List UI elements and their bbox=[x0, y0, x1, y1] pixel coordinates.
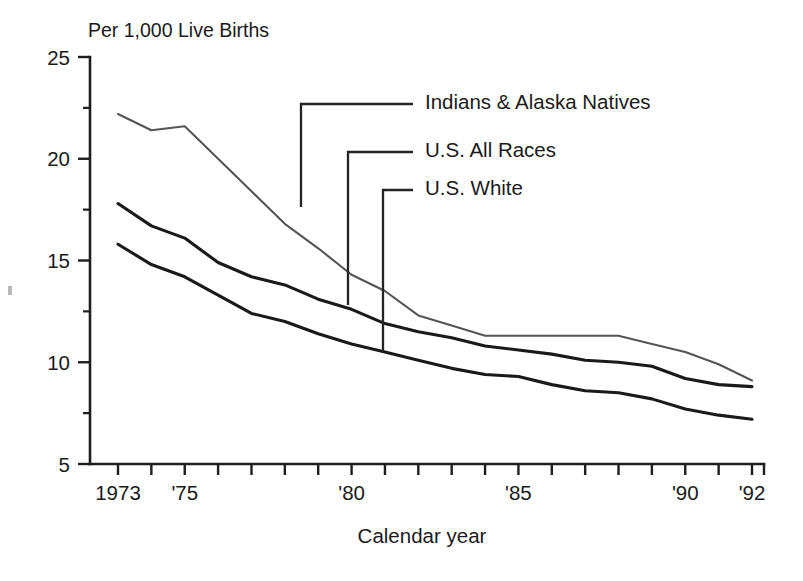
x-tick-label: '80 bbox=[338, 481, 365, 504]
scan-artifact bbox=[8, 286, 12, 295]
y-tick-label: 20 bbox=[47, 147, 70, 170]
y-tick-label: 10 bbox=[47, 351, 70, 374]
line-chart-figure: Per 1,000 Live Births 510152025 1973'75'… bbox=[0, 0, 803, 581]
legend-label-u-s-all-races: U.S. All Races bbox=[425, 138, 556, 161]
x-axis-title: Calendar year bbox=[358, 524, 487, 547]
chart-canvas: Per 1,000 Live Births 510152025 1973'75'… bbox=[0, 0, 803, 581]
y-tick-label: 5 bbox=[59, 453, 70, 476]
x-tick-label: '92 bbox=[739, 481, 766, 504]
chart-axes bbox=[78, 57, 764, 475]
x-tick-label: '75 bbox=[171, 481, 198, 504]
unit-caption: Per 1,000 Live Births bbox=[88, 19, 269, 41]
x-tick-label: '90 bbox=[672, 481, 699, 504]
x-axis-tick-labels: 1973'75'80'85'90'92 bbox=[95, 481, 765, 504]
legend-label-u-s-white: U.S. White bbox=[425, 176, 523, 199]
series-line-u-s-all-races bbox=[118, 204, 752, 387]
legend-leader-lines bbox=[301, 104, 413, 352]
y-tick-label: 15 bbox=[47, 249, 70, 272]
leader-line-2 bbox=[348, 152, 413, 305]
x-tick-label: 1973 bbox=[95, 481, 141, 504]
leader-line-1 bbox=[301, 104, 413, 207]
x-tick-label: '85 bbox=[505, 481, 532, 504]
y-axis-tick-labels: 510152025 bbox=[47, 46, 70, 476]
legend-label-indians-alaska-natives: Indians & Alaska Natives bbox=[425, 90, 651, 113]
y-tick-label: 25 bbox=[47, 46, 70, 69]
legend: Indians & Alaska NativesU.S. All RacesU.… bbox=[425, 90, 651, 199]
series-line-u-s-white bbox=[118, 244, 752, 419]
